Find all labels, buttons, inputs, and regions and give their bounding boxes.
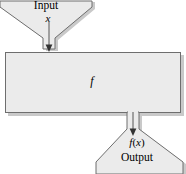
output-label: Output (106, 152, 168, 164)
output-value-label: f(x) (113, 137, 161, 148)
input-label: Input (0, 0, 92, 12)
output-value-paren-close: ) (141, 136, 145, 148)
function-machine-diagram: Input x f f(x) Output (0, 0, 186, 174)
function-label: f (79, 75, 105, 87)
input-variable-label: x (34, 13, 62, 24)
